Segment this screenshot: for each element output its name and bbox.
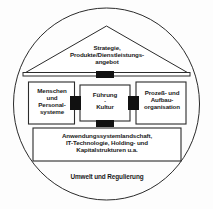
pillar-prozess-line-2: Aufbau- [151, 96, 174, 103]
pillar-label-menschen: Menschen und Personal- systeme [30, 88, 74, 116]
pillar-label-fuehrung: Führung - Kultur [80, 92, 130, 111]
foundation-line-2: IT-Technologie, Holding- und [66, 139, 148, 146]
roof-label-line-3: angebot [95, 58, 118, 65]
foundation-line-3: Kapitalstrukturen u.a. [76, 146, 137, 153]
roof-label: Strategie, Produkte/Dienstleistungs- ang… [49, 45, 165, 66]
pillar-label-prozess: Prozeß- und Aufbau- organisation [137, 90, 187, 111]
pillar-menschen-line-2: und [46, 94, 57, 101]
roof-label-line-1: Strategie, [93, 44, 120, 51]
foundation-label: Anwendungssystemlandschaft, IT-Technolog… [36, 133, 178, 154]
pillar-menschen-line-1: Menschen [37, 87, 66, 94]
connector-center-foundation [96, 120, 114, 127]
foundation-line-1: Anwendungssystemlandschaft, [62, 132, 152, 139]
roof-label-line-2: Produkte/Dienstleistungs- [70, 51, 144, 58]
pillar-fuehrung-line-2: Kultur [96, 103, 114, 110]
pillar-fuehrung-line-1: Führung [93, 91, 117, 98]
pillar-prozess-line-3: organisation [144, 103, 180, 110]
pillar-menschen-line-3: Personal- [38, 101, 65, 108]
environment-label: Umwelt und Regulierung [44, 173, 170, 180]
diagram-canvas: Strategie, Produkte/Dienstleistungs- ang… [0, 0, 213, 209]
connector-roof-center [96, 71, 114, 78]
pillar-prozess-line-1: Prozeß- und [145, 89, 180, 96]
pillar-menschen-line-4: systeme [40, 108, 64, 115]
